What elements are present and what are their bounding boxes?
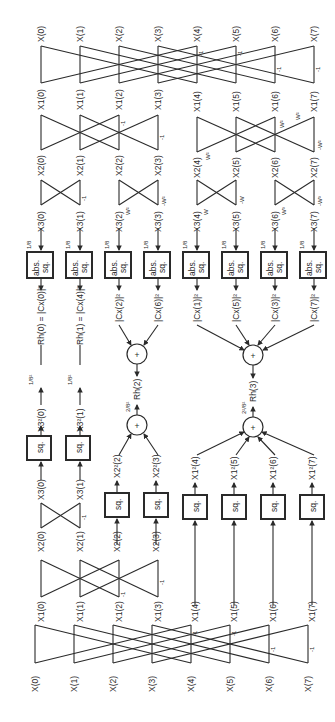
svg-text:X2(3): X2(3): [151, 531, 161, 552]
svg-text:sq.: sq.: [269, 501, 279, 512]
svg-text:sq.: sq.: [35, 442, 45, 453]
rh-scale-labels: Rh(2) Rh(3) 2/8² 2²/8² 1/8² 1/8²: [28, 375, 258, 414]
svg-text:+: +: [135, 350, 140, 360]
svg-text:W: W: [203, 209, 209, 215]
svg-text:X(0): X(0): [36, 26, 46, 42]
svg-text:X(3): X(3): [153, 26, 163, 42]
svg-text:X2(2): X2(2): [114, 155, 124, 176]
svg-text:Rh(2): Rh(2): [132, 379, 142, 400]
svg-text:|Cx(2)|²: |Cx(2)|²: [114, 294, 124, 322]
svg-text:X2(1): X2(1): [75, 531, 85, 552]
svg-text:sq.: sq.: [235, 262, 245, 273]
svg-text:1/8: 1/8: [65, 240, 71, 249]
svg-text:|Cx(7)|²: |Cx(7)|²: [309, 294, 319, 322]
svg-text:X3(0): X3(0): [36, 479, 46, 500]
svg-text:sq.: sq.: [74, 442, 84, 453]
svg-text:sq.: sq.: [152, 499, 162, 510]
svg-text:X(4): X(4): [192, 26, 202, 42]
svg-text:|Cx(5)|²: |Cx(5)|²: [231, 294, 241, 322]
svg-text:X3(5): X3(5): [231, 211, 241, 232]
svg-text:-W²: -W²: [161, 196, 167, 206]
plus-symbols: + + + +: [135, 350, 256, 433]
svg-text:X3²(1): X3²(1): [75, 408, 85, 432]
svg-text:X2(1): X2(1): [75, 155, 85, 176]
svg-text:X2(0): X2(0): [36, 531, 46, 552]
svg-text:X3(2): X3(2): [114, 211, 124, 232]
svg-text:X1(2): X1(2): [114, 601, 124, 622]
svg-text:1/8²: 1/8²: [28, 375, 34, 385]
svg-text:1/8: 1/8: [221, 240, 227, 249]
svg-text:1/8: 1/8: [104, 240, 110, 249]
top-stage2-butterflies: [41, 115, 314, 152]
svg-text:-1: -1: [270, 646, 276, 652]
svg-text:sq.: sq.: [191, 501, 201, 512]
svg-text:|Cx(3)|²: |Cx(3)|²: [270, 294, 280, 322]
svg-text:1/8: 1/8: [260, 240, 266, 249]
svg-text:1/8: 1/8: [26, 240, 32, 249]
svg-text:+: +: [251, 423, 256, 433]
svg-text:-1: -1: [309, 646, 315, 652]
sq-column: [27, 426, 324, 605]
svg-text:X1(3): X1(3): [153, 89, 163, 110]
svg-text:sq.: sq.: [79, 262, 89, 273]
svg-text:X(6): X(6): [264, 676, 274, 692]
svg-text:|Cx(6)|²: |Cx(6)|²: [153, 294, 163, 322]
svg-text:X1(6): X1(6): [268, 601, 278, 622]
svg-text:X1(0): X1(0): [36, 89, 46, 110]
svg-text:X(0): X(0): [30, 676, 40, 692]
svg-text:-1: -1: [231, 630, 237, 636]
svg-text:X1(5): X1(5): [229, 601, 239, 622]
top-x3-labels: X3(0) X3(1) X3(2) X3(3) X3(4) X3(5) X3(6…: [36, 211, 319, 232]
svg-text:sq.: sq.: [118, 262, 128, 273]
top-stage1-butterflies: [41, 46, 314, 83]
svg-text:-1: -1: [159, 579, 165, 585]
svg-text:-W³: -W³: [317, 196, 323, 206]
svg-text:X(1): X(1): [69, 676, 79, 692]
svg-text:W²: W²: [205, 152, 211, 160]
svg-text:X2(4): X2(4): [192, 157, 202, 178]
bottom-stage2-butterflies: [41, 560, 158, 597]
flow-graph: X(0) X(1) X(2) X(3) X(4) X(5) X(6) X(7) …: [0, 0, 335, 722]
svg-text:X(6): X(6): [270, 26, 280, 42]
svg-text:-1: -1: [159, 134, 165, 140]
svg-text:Rh(0) = |Cx(0)|²: Rh(0) = |Cx(0)|²: [36, 286, 46, 345]
svg-text:-1: -1: [237, 50, 243, 56]
svg-text:1/8: 1/8: [182, 240, 188, 249]
svg-text:X1(1): X1(1): [75, 601, 85, 622]
svg-text:|Cx(1)|²: |Cx(1)|²: [192, 294, 202, 322]
svg-text:X1²(6): X1²(6): [268, 456, 278, 480]
svg-text:-1: -1: [315, 66, 321, 72]
rh01-lines: [41, 345, 80, 405]
svg-text:X1²(4): X1²(4): [190, 456, 200, 480]
svg-text:X1²(5): X1²(5): [229, 456, 239, 480]
svg-text:X1(4): X1(4): [192, 91, 202, 112]
svg-text:-1: -1: [120, 591, 126, 597]
cx-output-labels: Rh(0) = |Cx(0)|² Rh(1) = |Cx(4)|² |Cx(2)…: [36, 286, 319, 345]
svg-text:X3(4): X3(4): [192, 211, 202, 232]
svg-text:-1: -1: [81, 514, 87, 520]
svg-text:+: +: [135, 421, 140, 431]
svg-text:X(5): X(5): [231, 26, 241, 42]
svg-text:-1: -1: [120, 120, 126, 126]
svg-text:X(1): X(1): [75, 26, 85, 42]
top-x2-labels: X2(0) X2(1) X2(2) X2(3) X2(4) X2(5) X2(6…: [36, 155, 319, 178]
svg-text:Rh(3): Rh(3): [248, 381, 258, 402]
svg-text:sq.: sq.: [196, 262, 206, 273]
svg-text:X2²(3): X2²(3): [151, 454, 161, 478]
svg-text:1/8: 1/8: [299, 240, 305, 249]
bottom-x2-labels: X2(0) X2(1) X2(2) X2(3): [36, 531, 161, 552]
svg-text:X3(1): X3(1): [75, 479, 85, 500]
svg-text:X2(6): X2(6): [270, 157, 280, 178]
bottom-stage1-butterflies: [35, 625, 308, 663]
bottom-x1-labels: X1(0) X1(1) X1(2) X1(3) X1(4) X1(5) X1(6…: [36, 601, 317, 622]
svg-text:X1(6): X1(6): [270, 91, 280, 112]
bottom-input-labels: X(0) X(1) X(2) X(3) X(4) X(5) X(6) X(7): [30, 676, 313, 692]
svg-text:X2(7): X2(7): [309, 157, 319, 178]
svg-text:X2(0): X2(0): [36, 155, 46, 176]
svg-text:W²: W²: [295, 112, 301, 120]
svg-text:-W: -W: [239, 196, 245, 204]
svg-text:W²: W²: [279, 120, 285, 128]
svg-text:X2(5): X2(5): [231, 157, 241, 178]
svg-text:X1(3): X1(3): [153, 601, 163, 622]
svg-text:W²: W²: [125, 207, 131, 215]
